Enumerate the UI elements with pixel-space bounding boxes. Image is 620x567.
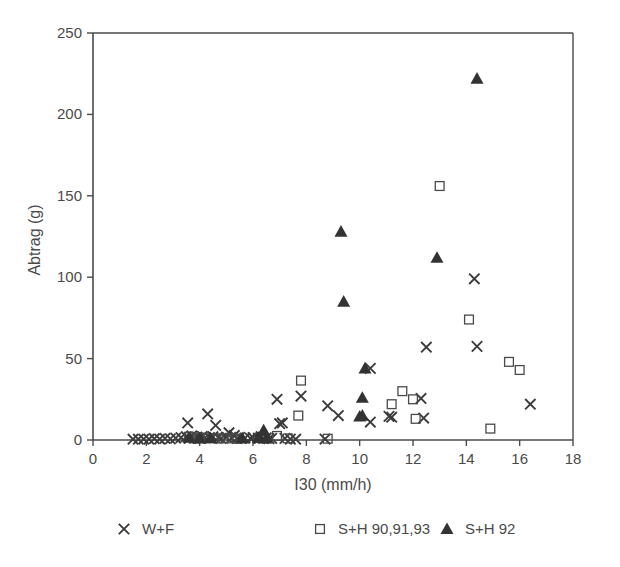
x-axis-title: I30 (mm/h)	[294, 476, 371, 493]
data-point	[333, 410, 343, 420]
data-point	[472, 341, 482, 351]
y-axis-title: Abtrag (g)	[26, 204, 43, 275]
x-tick-label: 6	[249, 450, 257, 467]
series-x	[128, 274, 536, 445]
data-point	[296, 391, 306, 401]
data-point	[133, 434, 143, 444]
legend-label: S+H 92	[465, 520, 515, 537]
data-point	[335, 225, 348, 237]
x-tick-label: 8	[302, 450, 310, 467]
x-tick-label: 16	[511, 450, 528, 467]
legend-entry: S+H 90,91,93	[316, 520, 431, 537]
x-tick-label: 18	[565, 450, 582, 467]
data-point	[421, 342, 431, 352]
y-axis-ticks: 050100150200250	[57, 24, 93, 448]
y-tick-label: 250	[57, 24, 82, 41]
x-tick-label: 12	[405, 450, 422, 467]
y-tick-label: 200	[57, 105, 82, 122]
y-tick-label: 0	[74, 431, 82, 448]
scatter-plot-figure: 050100150200250 024681012141618 Abtrag (…	[0, 0, 620, 567]
legend-entry: S+H 92	[441, 520, 516, 537]
legend-entry: W+F	[119, 520, 174, 537]
data-point	[471, 72, 484, 84]
data-point	[202, 409, 212, 419]
data-point	[525, 399, 535, 409]
data-point	[469, 274, 479, 284]
data-point	[182, 418, 192, 428]
x-axis-ticks: 024681012141618	[89, 440, 582, 467]
data-point	[297, 376, 306, 385]
y-tick-label: 50	[65, 350, 82, 367]
series-square	[185, 182, 524, 443]
data-point	[435, 182, 444, 191]
x-marker-icon	[119, 524, 129, 534]
data-series-layer	[128, 72, 536, 444]
series-triangle	[183, 72, 484, 443]
x-tick-label: 0	[89, 450, 97, 467]
data-point	[138, 434, 148, 444]
data-point	[431, 251, 444, 263]
data-point	[294, 411, 303, 420]
data-point	[128, 434, 138, 444]
data-point	[210, 420, 220, 430]
data-point	[515, 366, 524, 375]
data-point	[257, 424, 270, 436]
x-tick-label: 14	[458, 450, 475, 467]
data-point	[337, 295, 350, 307]
chart-canvas: 050100150200250 024681012141618 Abtrag (…	[0, 0, 620, 567]
data-point	[486, 424, 495, 433]
data-point	[356, 391, 369, 403]
y-tick-label: 150	[57, 187, 82, 204]
x-tick-label: 10	[351, 450, 368, 467]
data-point	[465, 315, 474, 324]
x-tick-label: 4	[195, 450, 203, 467]
data-point	[272, 394, 282, 404]
chart-legend: W+FS+H 90,91,93S+H 92	[119, 520, 516, 537]
legend-label: S+H 90,91,93	[338, 520, 430, 537]
data-point	[398, 387, 407, 396]
square-marker-icon	[316, 525, 325, 534]
data-point	[387, 400, 396, 409]
axes-frame	[93, 33, 573, 440]
triangle-marker-icon	[441, 523, 454, 535]
data-point	[322, 401, 332, 411]
data-point	[505, 357, 514, 366]
x-tick-label: 2	[142, 450, 150, 467]
legend-label: W+F	[142, 520, 174, 537]
y-tick-label: 100	[57, 268, 82, 285]
